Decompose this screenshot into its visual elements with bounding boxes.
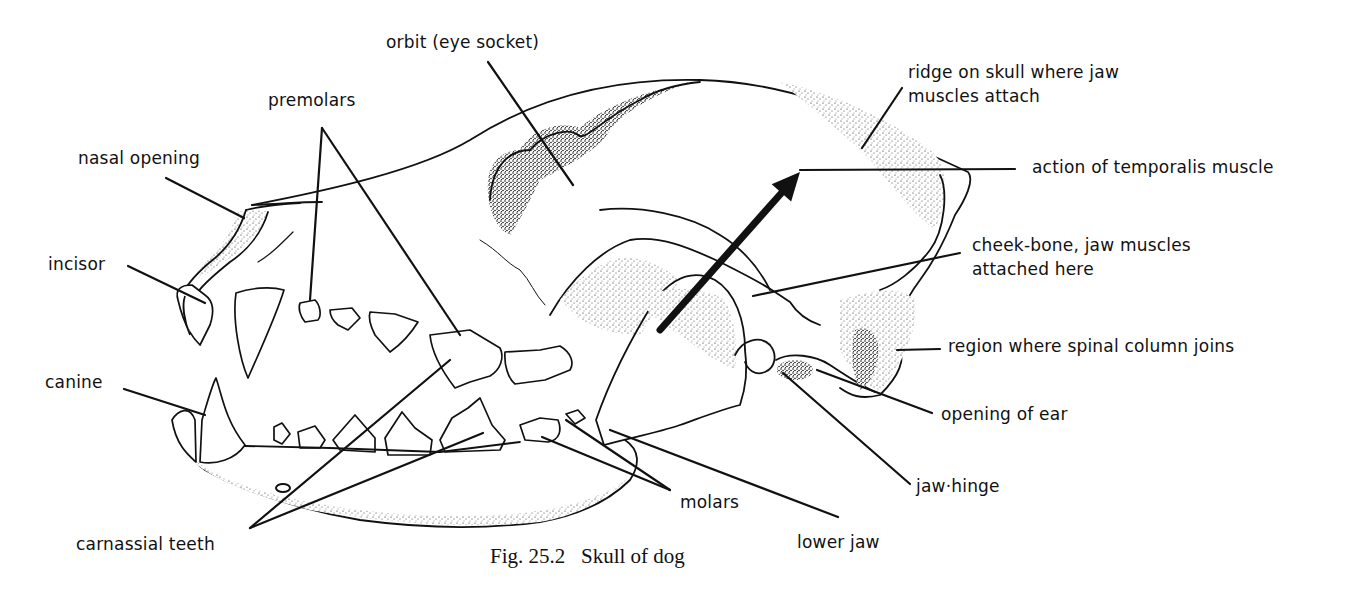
- leader-line-temporalis: [800, 169, 1015, 170]
- leader-line-nasal-opening: [166, 178, 244, 218]
- label-line: ridge on skull where jaw: [908, 60, 1119, 84]
- label-premolars: premolars: [268, 88, 356, 112]
- skull-outline: [180, 80, 970, 527]
- temporalis-action-arrow: [660, 172, 800, 330]
- leader-line-premolars: [310, 128, 322, 300]
- leader-line-jaw-hinge: [783, 373, 910, 484]
- label-carnassial: carnassial teeth: [76, 532, 215, 556]
- label-canine: canine: [45, 370, 103, 394]
- label-line: cheek-bone, jaw muscles: [972, 233, 1191, 257]
- leader-line-canine: [124, 389, 205, 415]
- leader-line-molars: [566, 420, 670, 490]
- leader-line-spinal-column: [897, 349, 940, 350]
- label-ear-opening: opening of ear: [941, 402, 1068, 426]
- label-temporalis: action of temporalis muscle: [1032, 155, 1274, 179]
- label-lower-jaw: lower jaw: [797, 530, 880, 554]
- label-molars: molars: [680, 490, 739, 514]
- label-line: attached here: [972, 257, 1191, 281]
- leader-line-premolars: [322, 128, 460, 335]
- leader-line-cheek-bone: [753, 253, 960, 296]
- label-spinal-column: region where spinal column joins: [948, 334, 1234, 358]
- figure-caption: Fig. 25.2 Skull of dog: [490, 544, 685, 569]
- label-jaw-hinge: jaw·hinge: [916, 474, 1000, 498]
- label-line: muscles attach: [908, 84, 1119, 108]
- label-ridge: ridge on skull where jawmuscles attach: [908, 60, 1119, 108]
- leader-line-incisor: [128, 266, 205, 303]
- skull-of-dog-diagram: [0, 0, 1358, 606]
- label-orbit: orbit (eye socket): [386, 30, 539, 54]
- label-nasal-opening: nasal opening: [78, 146, 200, 170]
- label-cheek-bone: cheek-bone, jaw musclesattached here: [972, 233, 1191, 281]
- label-incisor: incisor: [48, 252, 105, 276]
- upper-teeth: [177, 285, 572, 388]
